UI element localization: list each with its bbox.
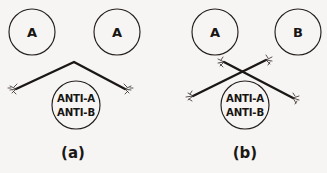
cell-label: A: [27, 25, 37, 40]
panel-a-caption: (a): [61, 144, 85, 162]
agglutination-figure: A A: [0, 0, 327, 173]
antibody-source-label-line-1: ANTI-A: [226, 93, 264, 104]
figure-canvas: A A: [0, 0, 327, 173]
cell-label: A: [210, 25, 220, 40]
cell-label: B: [293, 25, 303, 40]
antibody-source-label-line-2: ANTI-B: [226, 107, 264, 118]
panel-b-caption: (b): [233, 144, 257, 162]
antibody-source-label-line-1: ANTI-A: [57, 93, 95, 104]
antibody-source-label-line-2: ANTI-B: [57, 107, 95, 118]
figure-background: [0, 0, 327, 173]
cell-label: A: [112, 25, 122, 40]
